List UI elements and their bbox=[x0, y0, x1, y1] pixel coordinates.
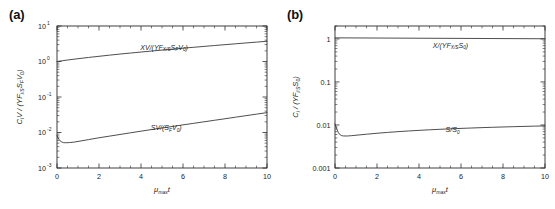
y-tick-label: 10 bbox=[38, 164, 46, 173]
y-tick-label: 1 bbox=[327, 35, 331, 44]
data-curve bbox=[335, 38, 545, 39]
panel-b-plot: 10.10.010.0010246810μmaxtCi / (YFi/SS0)X… bbox=[278, 0, 555, 209]
y-tick-label: 10 bbox=[38, 22, 46, 31]
y-axis-title: CiV / (YFi/SSFV0) bbox=[15, 69, 25, 124]
y-tick-exponent: -2 bbox=[47, 127, 52, 132]
y-tick-label: 10 bbox=[38, 93, 46, 102]
x-tick-label: 6 bbox=[181, 172, 185, 181]
data-curve bbox=[335, 124, 545, 136]
x-tick-label: 10 bbox=[541, 172, 549, 181]
x-tick-label: 10 bbox=[263, 172, 271, 181]
y-tick-label: 0.01 bbox=[317, 121, 331, 130]
x-axis-title: μmaxt bbox=[431, 185, 449, 195]
y-tick-exponent: 1 bbox=[47, 21, 50, 26]
x-tick-label: 4 bbox=[417, 172, 421, 181]
y-tick-exponent: 0 bbox=[47, 56, 50, 61]
curve-label-substrate: S/S0 bbox=[446, 126, 460, 135]
figure-container: (a) 10110010-110-210-30246810μmaxtCiV / … bbox=[0, 0, 555, 209]
panel-a-plot: 10110010-110-210-30246810μmaxtCiV / (YFi… bbox=[0, 0, 277, 209]
panel-b: (b) 10.10.010.0010246810μmaxtCi / (YFi/S… bbox=[278, 0, 555, 209]
y-tick-label: 0.001 bbox=[313, 164, 331, 173]
x-tick-label: 2 bbox=[375, 172, 379, 181]
y-tick-label: 10 bbox=[38, 57, 46, 66]
panel-a: (a) 10110010-110-210-30246810μmaxtCiV / … bbox=[0, 0, 277, 209]
x-tick-label: 6 bbox=[459, 172, 463, 181]
x-tick-label: 0 bbox=[333, 172, 337, 181]
curve-label-biomass: XV/(YFX/SSFV0) bbox=[139, 44, 188, 53]
y-tick-exponent: -1 bbox=[47, 92, 52, 97]
x-tick-label: 8 bbox=[501, 172, 505, 181]
y-axis-title: Ci / (YFi/SS0) bbox=[291, 76, 301, 118]
curve-label-biomass: X/(YFX/SS0) bbox=[432, 42, 468, 51]
y-tick-label: 10 bbox=[38, 128, 46, 137]
curve-label-substrate: SV/(SFV0) bbox=[151, 124, 182, 133]
x-tick-label: 4 bbox=[139, 172, 143, 181]
x-axis-title: μmaxt bbox=[153, 185, 171, 195]
x-tick-label: 2 bbox=[97, 172, 101, 181]
x-tick-label: 0 bbox=[55, 172, 59, 181]
y-tick-exponent: -3 bbox=[47, 163, 52, 168]
y-tick-label: 0.1 bbox=[321, 78, 331, 87]
x-tick-label: 8 bbox=[223, 172, 227, 181]
